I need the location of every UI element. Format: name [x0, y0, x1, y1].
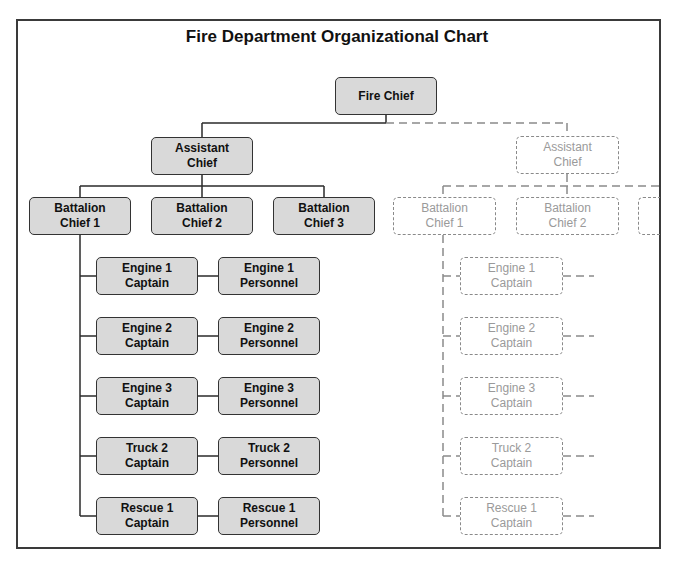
node-battalion-chief-3[interactable]: Battalion Chief 3 — [273, 197, 375, 235]
ghost-rescue-1-captain[interactable]: Rescue 1 Captain — [460, 497, 563, 535]
ghost-battalion-chief-3-partial — [638, 197, 660, 235]
ghost-assistant-chief[interactable]: Assistant Chief — [516, 136, 619, 174]
ghost-engine-1-captain[interactable]: Engine 1 Captain — [460, 257, 563, 295]
node-truck-2-captain[interactable]: Truck 2 Captain — [96, 437, 198, 475]
node-engine-2-captain[interactable]: Engine 2 Captain — [96, 317, 198, 355]
ghost-engine-2-captain[interactable]: Engine 2 Captain — [460, 317, 563, 355]
node-rescue-1-personnel[interactable]: Rescue 1 Personnel — [218, 497, 320, 535]
node-engine-3-personnel[interactable]: Engine 3 Personnel — [218, 377, 320, 415]
ghost-battalion-chief-1[interactable]: Battalion Chief 1 — [393, 197, 496, 235]
node-engine-2-personnel[interactable]: Engine 2 Personnel — [218, 317, 320, 355]
node-battalion-chief-2[interactable]: Battalion Chief 2 — [151, 197, 253, 235]
node-fire-chief[interactable]: Fire Chief — [335, 77, 437, 115]
node-truck-2-personnel[interactable]: Truck 2 Personnel — [218, 437, 320, 475]
node-engine-1-personnel[interactable]: Engine 1 Personnel — [218, 257, 320, 295]
node-assistant-chief[interactable]: Assistant Chief — [151, 137, 253, 175]
ghost-engine-3-captain[interactable]: Engine 3 Captain — [460, 377, 563, 415]
chart-title: Fire Department Organizational Chart — [0, 27, 674, 47]
ghost-truck-2-captain[interactable]: Truck 2 Captain — [460, 437, 563, 475]
node-rescue-1-captain[interactable]: Rescue 1 Captain — [96, 497, 198, 535]
node-battalion-chief-1[interactable]: Battalion Chief 1 — [29, 197, 131, 235]
node-engine-1-captain[interactable]: Engine 1 Captain — [96, 257, 198, 295]
node-engine-3-captain[interactable]: Engine 3 Captain — [96, 377, 198, 415]
ghost-battalion-chief-2[interactable]: Battalion Chief 2 — [516, 197, 619, 235]
